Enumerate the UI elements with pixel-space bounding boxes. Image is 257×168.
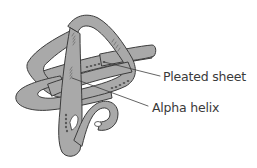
protein-structure-diagram — [0, 0, 257, 168]
label-pleated-sheet: Pleated sheet — [163, 71, 246, 84]
label-alpha-helix: Alpha helix — [152, 102, 219, 115]
